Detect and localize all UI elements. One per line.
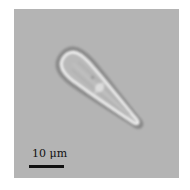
- scale-bar-label: 10 μm: [32, 147, 67, 160]
- cell-specimen: [0, 0, 190, 190]
- scale-bar: [29, 165, 64, 168]
